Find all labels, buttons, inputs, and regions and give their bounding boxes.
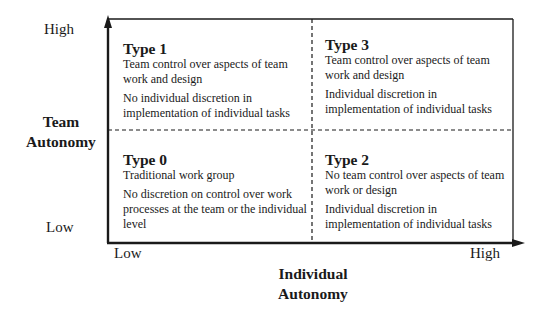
quadrant-desc: No individual discretion in implementati…: [123, 91, 308, 121]
quadrant-type-1: Type 1 Team control over aspects of team…: [123, 40, 308, 121]
y-axis-high-label: High: [44, 21, 74, 38]
x-axis-title-line1: Individual: [268, 264, 358, 284]
quadrant-title: Type 0: [123, 151, 308, 168]
quadrant-title: Type 2: [325, 151, 510, 168]
y-axis-title: Team Autonomy: [20, 112, 102, 152]
y-axis-title-line2: Autonomy: [20, 132, 102, 152]
quadrant-desc: No team control over aspects of team wor…: [325, 168, 510, 198]
x-axis-high-label: High: [470, 245, 500, 262]
quadrant-type-0: Type 0 Traditional work group No discret…: [123, 151, 308, 232]
quadrant-desc: Team control over aspects of team work a…: [123, 57, 308, 87]
y-axis-arrow-icon: [104, 15, 112, 28]
quadrant-desc: Team control over aspects of team work a…: [325, 53, 510, 83]
quadrant-desc: No discretion on control over work proce…: [123, 187, 308, 232]
x-axis-title: Individual Autonomy: [268, 264, 358, 304]
x-axis-low-label: Low: [114, 245, 142, 262]
quadrant-desc: Traditional work group: [123, 168, 308, 183]
quadrant-title: Type 1: [123, 40, 308, 57]
y-axis-low-label: Low: [46, 219, 74, 236]
quadrant-type-3: Type 3 Team control over aspects of team…: [325, 36, 510, 117]
quadrant-title: Type 3: [325, 36, 510, 53]
quadrant-desc: Individual discretion in implementation …: [325, 87, 510, 117]
quadrant-desc: Individual discretion in implementation …: [325, 202, 510, 232]
x-axis-arrow-icon: [512, 239, 525, 247]
y-axis-title-line1: Team: [20, 112, 102, 132]
x-axis-title-line2: Autonomy: [268, 284, 358, 304]
quadrant-type-2: Type 2 No team control over aspects of t…: [325, 151, 510, 232]
